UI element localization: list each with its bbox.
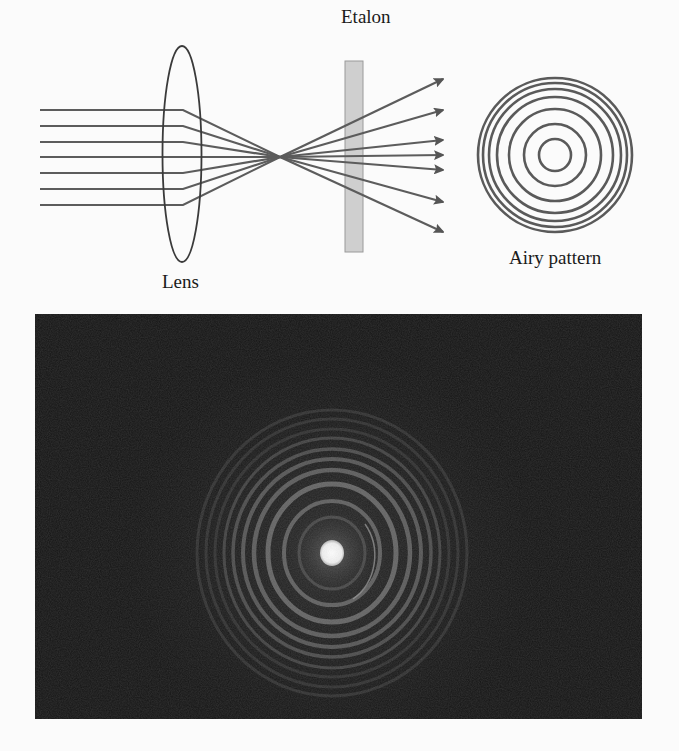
incoming-rays <box>40 110 280 205</box>
interference-rings-image <box>35 314 642 719</box>
airy-pattern-label: Airy pattern <box>509 248 601 267</box>
airy-pattern-icon <box>478 78 632 232</box>
lens-icon <box>163 46 202 262</box>
etalon-label: Etalon <box>341 7 391 26</box>
fabry-perot-diagram: Etalon Lens Airy pattern <box>0 0 679 300</box>
lens-label: Lens <box>162 272 199 291</box>
interference-photograph <box>35 314 642 719</box>
